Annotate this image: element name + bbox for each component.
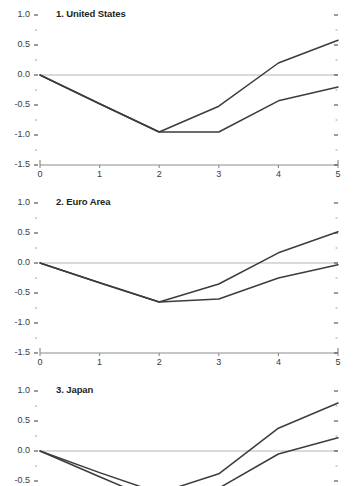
y-axis-tick-label: -1.5 [0, 347, 30, 357]
series-line-upper [40, 232, 338, 302]
series-line-lower [40, 438, 338, 486]
x-axis-tick-label: 5 [331, 169, 345, 179]
y-axis-tick-label: -1.0 [0, 129, 30, 139]
y-axis-tick-label: -1.0 [0, 317, 30, 327]
y-axis-tick-label: 0.0 [0, 69, 30, 79]
panel-3-title: 3. Japan [56, 384, 93, 395]
chart-panel-euro-area: 2. Euro Area 1.00.50.0-0.5-1.0-1.5012345 [0, 188, 353, 374]
panel-2-title: 2. Euro Area [56, 196, 110, 207]
y-axis-tick-label: 1.0 [0, 197, 30, 207]
x-axis-tick-label: 2 [152, 169, 166, 179]
panel-1-title: 1. United States [56, 8, 126, 19]
x-axis-tick-label: 3 [212, 357, 226, 367]
multi-panel-line-chart: 1. United States 1.00.50.0-0.5-1.0-1.501… [0, 0, 353, 486]
series-line-lower [40, 263, 338, 302]
series-line-lower [40, 75, 338, 132]
x-axis-tick-label: 1 [93, 169, 107, 179]
x-axis-tick-label: 1 [93, 357, 107, 367]
y-axis-tick-label: 0.5 [0, 227, 30, 237]
x-axis-tick-label: 5 [331, 357, 345, 367]
x-axis-tick-label: 0 [33, 169, 47, 179]
x-axis-tick-label: 4 [271, 357, 285, 367]
panel-2-plot [0, 188, 353, 374]
y-axis-tick-label: 0.5 [0, 415, 30, 425]
panel-3-plot [0, 376, 353, 486]
chart-panel-united-states: 1. United States 1.00.50.0-0.5-1.0-1.501… [0, 0, 353, 186]
y-axis-tick-label: 0.0 [0, 257, 30, 267]
y-axis-tick-label: 1.0 [0, 385, 30, 395]
y-axis-tick-label: 1.0 [0, 9, 30, 19]
series-line-upper [40, 403, 338, 486]
y-axis-tick-label: -1.5 [0, 159, 30, 169]
y-axis-tick-label: 0.5 [0, 39, 30, 49]
y-axis-tick-label: -0.5 [0, 99, 30, 109]
x-axis-tick-label: 3 [212, 169, 226, 179]
x-axis-tick-label: 0 [33, 357, 47, 367]
x-axis-tick-label: 4 [271, 169, 285, 179]
y-axis-tick-label: -0.5 [0, 287, 30, 297]
x-axis-tick-label: 2 [152, 357, 166, 367]
chart-panel-japan: 3. Japan 1.00.50.0-0.5 [0, 376, 353, 486]
y-axis-tick-label: 0.0 [0, 445, 30, 455]
y-axis-tick-label: -0.5 [0, 475, 30, 485]
series-line-upper [40, 40, 338, 132]
panel-1-plot [0, 0, 353, 186]
